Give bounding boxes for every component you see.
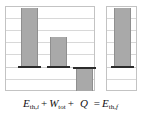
plus-operator-1: + (39, 98, 49, 109)
equals-operator: = (92, 98, 102, 109)
left-chart-panel (5, 6, 95, 91)
right-chart-panel (106, 6, 137, 91)
term-thermal-energy-final: Eth,f (102, 98, 118, 109)
gridline (107, 79, 136, 80)
bar-cap-work-total (47, 66, 70, 68)
plus-operator-2: + (66, 98, 76, 109)
term-heat: Q (80, 98, 88, 109)
equation-caption: Eth,i + Wtot + Q = Eth,f (0, 93, 141, 114)
term-thermal-energy-initial: Eth,i (23, 98, 39, 109)
bar-work-total (50, 37, 67, 68)
bar-cap-thermal-energy-final (111, 66, 134, 68)
bar-cap-heat (73, 67, 96, 69)
term-work-total: Wtot (49, 98, 66, 109)
gridline (6, 18, 94, 19)
bar-cap-thermal-energy-initial (18, 66, 41, 68)
bar-thermal-energy-initial (21, 8, 38, 68)
energy-bar-chart-figure: Eth,i + Wtot + Q = Eth,f (0, 0, 141, 114)
bar-heat (76, 69, 93, 91)
gridline (6, 30, 94, 31)
bar-thermal-energy-final (114, 8, 131, 68)
